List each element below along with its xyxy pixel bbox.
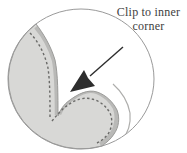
sewing-clip-diagram: Clip to inner corner (0, 0, 187, 153)
caption-line-1: Clip to inner (110, 5, 187, 19)
caption-line-2: corner (110, 19, 187, 33)
caption: Clip to inner corner (110, 5, 187, 33)
